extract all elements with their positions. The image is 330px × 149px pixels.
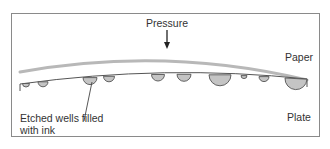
ink-well (241, 76, 247, 79)
pressure-arrow-icon (164, 30, 170, 49)
ink-well (177, 74, 191, 81)
etched-wells-label: Etched wells filled with ink (20, 112, 110, 136)
ink-well (38, 82, 48, 87)
ink-well (104, 76, 115, 82)
plate-label: Plate (287, 111, 311, 123)
ink-well (285, 78, 307, 90)
ink-well (152, 75, 165, 82)
paper-label: Paper (285, 51, 313, 63)
ink-well (83, 78, 97, 85)
ink-well (23, 84, 30, 88)
ink-well (209, 75, 231, 86)
ink-well (259, 77, 269, 82)
pressure-label: Pressure (146, 17, 188, 29)
etched-wells (23, 74, 308, 89)
